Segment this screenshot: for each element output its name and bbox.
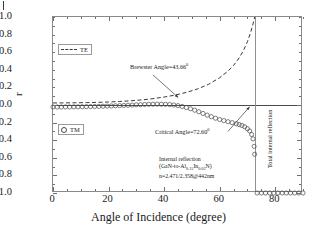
y-axis-tick bbox=[53, 105, 57, 106]
tm-data-point bbox=[193, 108, 197, 112]
total-internal-reflection-annotation: Total internal reflection bbox=[266, 110, 273, 168]
x-axis-tick-top bbox=[122, 17, 123, 19]
tm-data-point bbox=[250, 132, 254, 136]
y-axis-tick-right bbox=[299, 17, 301, 18]
x-axis-tick bbox=[67, 189, 68, 191]
tm-data-point bbox=[134, 103, 138, 107]
x-axis-tick bbox=[95, 189, 96, 191]
tm-data-point bbox=[301, 191, 305, 195]
tm-data-point bbox=[105, 104, 109, 108]
legend-label-tm: TM bbox=[70, 126, 80, 133]
x-axis-tick bbox=[234, 189, 235, 191]
tm-data-point bbox=[151, 102, 155, 106]
tm-data-point bbox=[184, 105, 188, 109]
x-axis-tick bbox=[289, 189, 290, 191]
x-axis-tick bbox=[81, 189, 82, 191]
y-tick-label: -0.6 bbox=[0, 152, 12, 162]
y-axis-tick-right bbox=[299, 79, 301, 80]
y-axis-tick bbox=[53, 35, 55, 36]
tm-data-point bbox=[197, 110, 201, 114]
y-tick-label: 0.8 bbox=[0, 29, 12, 39]
x-axis-tick-top bbox=[303, 17, 304, 19]
material-note-line1: Internal reflection bbox=[159, 156, 214, 163]
y-axis-tick bbox=[53, 87, 55, 88]
y-axis-tick bbox=[53, 123, 57, 124]
y-axis-tick bbox=[53, 96, 55, 97]
degree-sup: 0 bbox=[186, 62, 188, 67]
legend-item-te[interactable]: TE bbox=[58, 44, 92, 55]
y-axis-tick bbox=[53, 79, 55, 80]
y-axis-tick-right bbox=[299, 96, 301, 97]
tm-data-point bbox=[251, 137, 255, 141]
x-axis-tick bbox=[261, 189, 262, 191]
y-axis-tick bbox=[53, 26, 55, 27]
brewster-leader bbox=[153, 75, 178, 98]
tm-data-point bbox=[122, 103, 126, 107]
y-axis-tick-right bbox=[299, 43, 301, 44]
tm-data-point bbox=[138, 103, 142, 107]
x-axis-tick bbox=[303, 189, 304, 191]
y-axis-tick bbox=[53, 70, 55, 71]
material-note-line2: (GaN-to-Al0.15In0.02N) bbox=[159, 163, 214, 172]
y-tick-label: -1.0 bbox=[0, 187, 12, 197]
x-axis-tick-top bbox=[150, 17, 151, 19]
tm-data-point bbox=[209, 115, 213, 119]
x-axis-tick-top bbox=[164, 17, 165, 21]
y-axis-tick bbox=[53, 149, 55, 150]
y-axis-tick bbox=[53, 140, 57, 141]
x-axis-tick-top bbox=[67, 17, 68, 19]
tm-data-point bbox=[237, 122, 241, 126]
material-note-line3: n=2.471/2.358@442nm bbox=[159, 173, 214, 180]
corner-mark bbox=[3, 1, 4, 10]
circle-marker-icon bbox=[61, 127, 67, 133]
y-axis-title: r bbox=[12, 92, 24, 96]
x-axis-tick bbox=[109, 187, 110, 191]
tm-data-point bbox=[118, 104, 122, 108]
x-axis-tick-top bbox=[220, 17, 221, 21]
y-axis-tick-right bbox=[297, 158, 301, 159]
x-tick-label: 60 bbox=[199, 194, 239, 204]
x-axis-tick bbox=[122, 189, 123, 191]
tm-data-point bbox=[222, 118, 226, 122]
y-axis-tick-right bbox=[299, 35, 301, 36]
degree-sup: 0 bbox=[207, 127, 209, 132]
x-tick-label: 80 bbox=[254, 194, 294, 204]
dashed-line-icon bbox=[61, 49, 77, 50]
x-axis-tick-top bbox=[275, 17, 276, 21]
legend-label-te: TE bbox=[80, 46, 88, 53]
legend-item-tm[interactable]: TM bbox=[58, 124, 84, 135]
x-axis-tick-top bbox=[247, 17, 248, 19]
x-axis-tick-top bbox=[234, 17, 235, 19]
tm-data-point bbox=[180, 104, 184, 108]
material-note-annotation: Internal reflection (GaN-to-Al0.15In0.02… bbox=[159, 156, 214, 180]
tm-data-point bbox=[188, 107, 192, 111]
x-axis-tick-top bbox=[109, 17, 110, 21]
y-axis-tick-right bbox=[297, 123, 301, 124]
x-axis-tick-top bbox=[95, 17, 96, 19]
tm-data-point bbox=[163, 102, 167, 106]
y-axis-tick bbox=[53, 131, 55, 132]
x-axis-tick bbox=[247, 189, 248, 191]
y-axis-tick-right bbox=[299, 70, 301, 71]
y-tick-label: 1.0 bbox=[0, 11, 12, 21]
y-tick-label: 0.4 bbox=[0, 64, 12, 74]
tm-data-point bbox=[126, 103, 130, 107]
y-axis-tick-right bbox=[299, 114, 301, 115]
x-axis-tick-top bbox=[192, 17, 193, 19]
tm-data-point bbox=[159, 102, 163, 106]
y-axis-tick-right bbox=[299, 61, 301, 62]
te-curve bbox=[53, 17, 255, 103]
y-axis-tick-right bbox=[299, 131, 301, 132]
tm-data-point bbox=[84, 105, 88, 109]
x-axis-tick-top bbox=[206, 17, 207, 19]
x-axis-title: Angle of Incidence (degree) bbox=[0, 210, 317, 225]
y-axis-tick-right bbox=[299, 167, 301, 168]
y-tick-label: 0.0 bbox=[0, 99, 12, 109]
y-axis-tick-right bbox=[297, 140, 301, 141]
tm-data-point bbox=[93, 104, 97, 108]
tm-data-point bbox=[109, 104, 113, 108]
y-axis-tick-right bbox=[299, 87, 301, 88]
y-axis-tick bbox=[53, 184, 55, 185]
x-tick-label: 0 bbox=[32, 194, 72, 204]
x-tick-label: 20 bbox=[88, 194, 128, 204]
